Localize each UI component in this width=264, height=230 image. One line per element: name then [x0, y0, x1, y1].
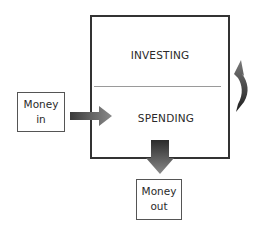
- investing-label: INVESTING: [92, 49, 228, 61]
- money-in-line2: in: [18, 112, 64, 127]
- money-out-line2: out: [137, 199, 181, 214]
- money-out-box: Money out: [136, 179, 182, 220]
- spending-label: SPENDING: [120, 112, 212, 124]
- money-in-line1: Money: [18, 97, 64, 112]
- money-out-line1: Money: [137, 184, 181, 199]
- section-divider: [94, 86, 221, 87]
- money-in-box: Money in: [17, 92, 65, 132]
- cycle-arrow-icon: [232, 60, 252, 112]
- money-in-arrow-icon: [70, 106, 112, 126]
- main-box: [90, 15, 230, 159]
- money-out-arrow-icon: [146, 140, 174, 174]
